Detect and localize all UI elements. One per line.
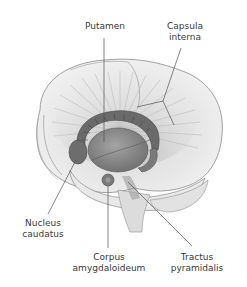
label-capsula-interna: Capsula interna	[160, 21, 210, 43]
label-putamen-line1: Putamen	[80, 21, 130, 32]
label-corpus-line1: Corpus	[70, 252, 148, 263]
label-capsula-line1: Capsula	[160, 21, 210, 32]
label-putamen: Putamen	[80, 21, 130, 32]
putamen	[88, 128, 148, 172]
brain-illustration	[0, 0, 247, 287]
label-tractus-line2: pyramidalis	[168, 263, 226, 274]
label-nucleus-line2: caudatus	[16, 229, 70, 240]
label-capsula-line2: interna	[160, 32, 210, 43]
label-tractus-line1: Tractus	[168, 252, 226, 263]
label-nucleus-caudatus: Nucleus caudatus	[16, 218, 70, 240]
label-nucleus-line1: Nucleus	[16, 218, 70, 229]
label-corpus-line2: amygdaloideum	[70, 263, 148, 274]
brain-anatomy-figure: Putamen Capsula interna Nucleus caudatus…	[0, 0, 247, 287]
label-corpus-amygdaloideum: Corpus amygdaloideum	[70, 252, 148, 274]
label-tractus-pyramidalis: Tractus pyramidalis	[168, 252, 226, 274]
